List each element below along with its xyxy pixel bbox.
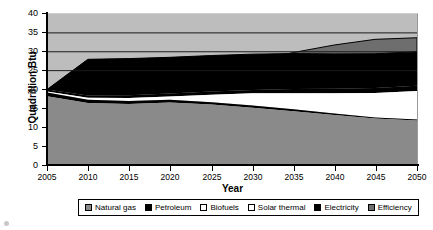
y-tick-label: 5 bbox=[12, 142, 38, 151]
x-tick bbox=[170, 166, 171, 171]
legend-swatch-solar-thermal bbox=[248, 204, 255, 211]
x-tick-label: 2010 bbox=[68, 172, 108, 182]
x-tick bbox=[335, 166, 336, 171]
y-tick bbox=[42, 51, 47, 52]
x-tick-label: 2045 bbox=[356, 172, 396, 182]
y-tick-label: 10 bbox=[12, 123, 38, 132]
legend-swatch-petroleum bbox=[145, 204, 152, 211]
y-tick-label: 0 bbox=[12, 161, 38, 170]
legend-item-natural-gas[interactable]: Natural gas bbox=[85, 203, 136, 212]
x-tick bbox=[376, 166, 377, 171]
y-tick bbox=[42, 13, 47, 14]
x-tick-label: 2040 bbox=[315, 172, 355, 182]
legend-swatch-electricity bbox=[314, 204, 321, 211]
legend-label-petroleum: Petroleum bbox=[155, 203, 191, 212]
legend-label-natural-gas: Natural gas bbox=[95, 203, 136, 212]
legend-label-solar-thermal: Solar thermal bbox=[258, 203, 306, 212]
y-tick bbox=[42, 108, 47, 109]
y-tick-label: 30 bbox=[12, 47, 38, 56]
legend-swatch-biofuels bbox=[200, 204, 207, 211]
x-tick-label: 2035 bbox=[274, 172, 314, 182]
x-tick-label: 2025 bbox=[192, 172, 232, 182]
legend-label-biofuels: Biofuels bbox=[210, 203, 238, 212]
x-axis-title: Year bbox=[47, 183, 418, 194]
x-axis-line bbox=[46, 164, 419, 166]
x-tick-label: 2050 bbox=[397, 172, 433, 182]
x-tick bbox=[294, 166, 295, 171]
x-tick-label: 2030 bbox=[233, 172, 273, 182]
x-tick-label: 2020 bbox=[150, 172, 190, 182]
x-tick bbox=[212, 166, 213, 171]
x-tick bbox=[253, 166, 254, 171]
legend-label-efficiency: Efficiency bbox=[378, 203, 412, 212]
scan-artifact-dot bbox=[4, 221, 9, 226]
y-tick-label: 25 bbox=[12, 66, 38, 75]
y-tick bbox=[42, 146, 47, 147]
y-tick bbox=[42, 89, 47, 90]
legend-swatch-natural-gas bbox=[85, 204, 92, 211]
y-tick bbox=[42, 32, 47, 33]
plot-area bbox=[47, 13, 418, 165]
stacked-area-plot bbox=[47, 14, 417, 165]
legend-item-efficiency[interactable]: Efficiency bbox=[368, 203, 412, 212]
y-tick-label: 40 bbox=[12, 9, 38, 18]
x-tick-label: 2005 bbox=[27, 172, 67, 182]
y-tick-label: 15 bbox=[12, 104, 38, 113]
legend-swatch-efficiency bbox=[368, 204, 375, 211]
y-axis-tick-labels: 40 35 30 25 20 15 10 5 0 bbox=[8, 0, 38, 180]
x-tick bbox=[129, 166, 130, 171]
chart-screenshot: Quadrillion Btu 40 35 30 25 20 15 10 5 0 bbox=[0, 0, 433, 230]
y-tick-label: 20 bbox=[12, 85, 38, 94]
legend-item-electricity[interactable]: Electricity bbox=[314, 203, 358, 212]
y-tick bbox=[42, 127, 47, 128]
y-tick bbox=[42, 70, 47, 71]
y-tick-label: 35 bbox=[12, 28, 38, 37]
x-tick bbox=[88, 166, 89, 171]
x-tick-label: 2015 bbox=[109, 172, 149, 182]
chart-legend: Natural gas Petroleum Biofuels Solar the… bbox=[78, 199, 419, 216]
x-tick bbox=[417, 166, 418, 171]
x-tick bbox=[47, 166, 48, 171]
legend-item-solar-thermal[interactable]: Solar thermal bbox=[248, 203, 306, 212]
legend-item-biofuels[interactable]: Biofuels bbox=[200, 203, 238, 212]
legend-label-electricity: Electricity bbox=[324, 203, 358, 212]
legend-item-petroleum[interactable]: Petroleum bbox=[145, 203, 191, 212]
